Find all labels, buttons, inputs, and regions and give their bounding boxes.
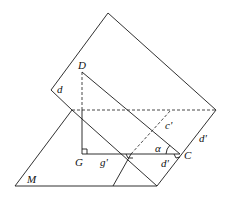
label-d: d: [57, 83, 63, 95]
alpha-arc: [166, 145, 170, 154]
c-prime-dashed: [131, 110, 171, 154]
label-G: G: [75, 156, 83, 168]
label-D: D: [77, 59, 86, 71]
geometry-diagram: D d G g' c' α C d' d' M: [0, 0, 229, 200]
label-M: M: [26, 173, 37, 185]
right-angle-c: [174, 154, 180, 158]
dc-line: [82, 72, 180, 154]
label-d-prime-bottom: d': [161, 157, 170, 169]
label-C: C: [184, 149, 192, 161]
c-prime-solid: [113, 154, 131, 186]
label-alpha: α: [155, 142, 161, 154]
right-angle-g: [82, 149, 87, 154]
label-d-prime-right: d': [199, 132, 208, 144]
label-g-prime: g': [100, 156, 109, 168]
label-c-prime: c': [165, 119, 173, 131]
plane-edge-diagonal: [72, 110, 157, 186]
lower-plane-m: [15, 110, 157, 186]
